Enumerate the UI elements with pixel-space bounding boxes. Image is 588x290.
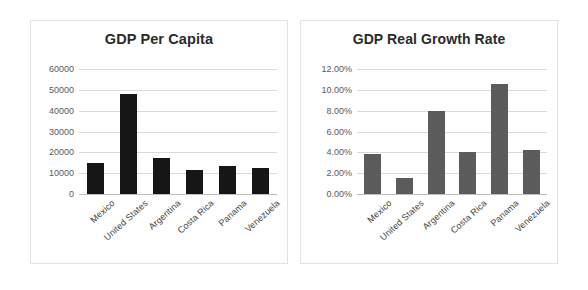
gdp-real-growth-rate-x-axis: MexicoUnited StatesArgentinaCosta RicaPa… [357,194,547,254]
bar [87,163,104,194]
bar-slot [452,69,484,194]
bar-slot [389,69,421,194]
gdp-real-growth-rate-chart-title: GDP Real Growth Rate [301,31,557,47]
x-axis-category-label: Mexico [88,198,116,225]
bar [459,152,476,194]
bar-slot [178,69,211,194]
bar-slot [79,69,112,194]
bar [364,154,381,194]
y-axis-tick-label: 4.00% [326,147,352,157]
y-axis-tick-label: 60000 [49,64,74,74]
gdp-real-growth-rate-bars [357,69,547,194]
y-axis-tick-label: 30000 [49,127,74,137]
gdp-per-capita-chart-title: GDP Per Capita [31,31,287,47]
bar-slot [357,69,389,194]
y-axis-tick-label: 10.00% [321,85,352,95]
bar-slot [211,69,244,194]
gdp-per-capita-plot-area: 6000050000400003000020000100000 MexicoUn… [79,69,277,194]
bar [396,178,413,194]
y-axis-tick-label: 8.00% [326,106,352,116]
bar-slot [515,69,547,194]
y-axis-tick-label: 20000 [49,147,74,157]
bar [523,150,540,194]
bar-slot [484,69,516,194]
y-axis-tick-label: 12.00% [321,64,352,74]
bar [153,158,170,194]
bar [219,166,236,194]
chart-page: GDP Per Capita 6000050000400003000020000… [0,0,588,290]
bar [186,170,203,194]
x-axis-category-label: Mexico [365,198,393,225]
x-axis-category-label: Panama [216,198,248,228]
y-axis-tick-label: 6.00% [326,127,352,137]
y-axis-tick-label: 0 [69,189,74,199]
bar-slot [420,69,452,194]
gdp-per-capita-chart: GDP Per Capita 6000050000400003000020000… [30,20,288,264]
y-axis-tick-label: 0.00% [326,189,352,199]
bar-slot [112,69,145,194]
bar [491,84,508,194]
gdp-real-growth-rate-plot-area: 12.00%10.00%8.00%6.00%4.00%2.00%0.00% Me… [357,69,547,194]
y-axis-tick-label: 40000 [49,106,74,116]
gdp-real-growth-rate-chart: GDP Real Growth Rate 12.00%10.00%8.00%6.… [300,20,558,264]
bar [428,111,445,194]
x-axis-category-label: Venezuela [243,198,282,234]
gdp-per-capita-bars [79,69,277,194]
bar [252,168,269,194]
bar [120,94,137,194]
gdp-per-capita-x-axis: MexicoUnited StatesArgentinaCosta RicaPa… [79,194,277,254]
bar-slot [145,69,178,194]
y-axis-tick-label: 2.00% [326,168,352,178]
bar-slot [244,69,277,194]
y-axis-tick-label: 50000 [49,85,74,95]
y-axis-tick-label: 10000 [49,168,74,178]
